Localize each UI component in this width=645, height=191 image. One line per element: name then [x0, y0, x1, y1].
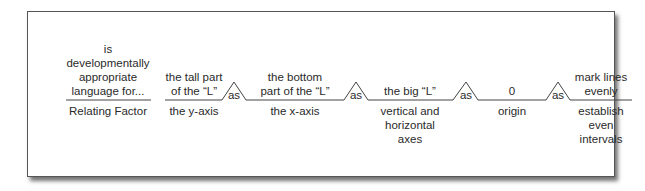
- text-line: the bottom: [260, 70, 329, 84]
- text-line: the tall part: [166, 70, 223, 84]
- text-line: Relating Factor: [69, 104, 147, 118]
- text-line: the y-axis: [169, 104, 218, 118]
- item-2-below: the x-axis: [270, 104, 319, 118]
- as-connector: as: [350, 89, 362, 101]
- item-1-above: the tall part of the “L”: [166, 70, 223, 98]
- text-line: establish: [578, 104, 623, 118]
- item-5-below: establish even intervals: [578, 104, 623, 146]
- text-line: origin: [498, 104, 526, 118]
- text-line: mark lines: [575, 70, 627, 84]
- text-line: part of the “L”: [260, 84, 329, 98]
- text-line: even: [578, 118, 623, 132]
- item-2-above: the bottom part of the “L”: [260, 70, 329, 98]
- text-line: 0: [509, 84, 515, 98]
- text-line: language for...: [66, 84, 149, 98]
- as-connector: as: [460, 89, 472, 101]
- text-line: is: [66, 42, 149, 56]
- item-3-above: the big “L”: [384, 84, 436, 98]
- relating-factor-description: is developmentally appropriate language …: [66, 42, 149, 98]
- text-line: horizontal: [381, 118, 440, 132]
- text-line: axes: [381, 132, 440, 146]
- item-3-below: vertical and horizontal axes: [381, 104, 440, 146]
- text-line: the x-axis: [270, 104, 319, 118]
- text-line: vertical and: [381, 104, 440, 118]
- relating-factor-label: Relating Factor: [69, 104, 147, 118]
- text-line: developmentally: [66, 56, 149, 70]
- text-line: intervals: [578, 132, 623, 146]
- item-5-above: mark lines evenly: [575, 70, 627, 98]
- text-line: the big “L”: [384, 84, 436, 98]
- item-4-below: origin: [498, 104, 526, 118]
- item-4-above: 0: [509, 84, 515, 98]
- text-line: appropriate: [66, 70, 149, 84]
- item-1-below: the y-axis: [169, 104, 218, 118]
- text-line: of the “L”: [166, 84, 223, 98]
- text-line: evenly: [575, 84, 627, 98]
- as-connector: as: [552, 89, 564, 101]
- as-connector: as: [228, 89, 240, 101]
